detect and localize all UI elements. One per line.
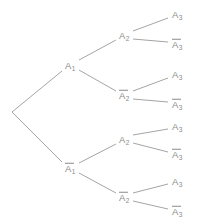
a2-4-to-a3-7 — [133, 184, 168, 193]
a2-3-to-a3-5 — [133, 129, 168, 135]
a2-1-to-a3-1 — [133, 18, 168, 31]
a2-3-to-a3-6 — [133, 143, 168, 152]
a2-2-to-a3-4 — [133, 99, 168, 102]
leaf-a3-8-bar-subscript: 3 — [179, 211, 183, 218]
leaf-a3-3-subscript: 3 — [179, 74, 183, 81]
node-a1-bar-base: A — [65, 163, 71, 174]
leaf-a3-5: A3 — [172, 121, 182, 132]
node-a2-1-base: A — [119, 30, 125, 41]
leaf-a3-2-bar: A3 — [172, 39, 182, 50]
node-a2-2-bar: A2 — [119, 90, 129, 101]
root-to-a1 — [12, 71, 62, 112]
leaf-a3-1-base: A — [172, 9, 178, 20]
leaf-a3-6-bar-base: A — [172, 149, 178, 160]
a2-1-to-a3-2 — [133, 39, 168, 42]
a2-2-to-a3-3 — [133, 78, 168, 91]
tree-edges-layer — [0, 0, 198, 224]
a1-to-a2-1 — [79, 40, 116, 60]
leaf-a3-1: A3 — [172, 9, 182, 20]
leaf-a3-8-bar: A3 — [172, 206, 182, 217]
a1bar-to-a2-3 — [79, 144, 116, 163]
leaf-a3-5-base: A — [172, 121, 178, 132]
node-a1: A1 — [65, 60, 75, 71]
node-a2-1-subscript: 2 — [126, 35, 130, 42]
leaf-a3-7-subscript: 3 — [179, 181, 183, 188]
node-a2-4-bar: A2 — [119, 192, 129, 203]
node-a1-base: A — [65, 60, 71, 71]
leaf-a3-2-bar-base: A — [172, 39, 178, 50]
node-a2-2-bar-subscript: 2 — [126, 95, 130, 102]
a2-4-to-a3-8 — [133, 201, 168, 209]
leaf-a3-6-bar: A3 — [172, 149, 182, 160]
root-to-a1bar — [12, 112, 62, 162]
node-a2-2-bar-base: A — [119, 90, 125, 101]
node-a1-subscript: 1 — [72, 65, 76, 72]
leaf-a3-6-bar-subscript: 3 — [179, 154, 183, 161]
node-a2-4-bar-subscript: 2 — [126, 197, 130, 204]
probability-tree-diagram: A1 A1 A2 A2 A2 A2 A3 A3 A3 A3 A3 A3 A3 A… — [0, 0, 198, 224]
node-a2-3: A2 — [119, 134, 129, 145]
a1bar-to-a2-4 — [79, 173, 116, 193]
node-a1-bar-subscript: 1 — [72, 168, 76, 175]
node-a2-3-base: A — [119, 134, 125, 145]
leaf-a3-4-bar: A3 — [172, 99, 182, 110]
leaf-a3-4-bar-base: A — [172, 99, 178, 110]
node-a1-bar: A1 — [65, 163, 75, 174]
leaf-a3-2-bar-subscript: 3 — [179, 44, 183, 51]
leaf-a3-7-base: A — [172, 176, 178, 187]
a1-to-a2-2 — [79, 70, 116, 91]
leaf-a3-3-base: A — [172, 69, 178, 80]
leaf-a3-7: A3 — [172, 176, 182, 187]
leaf-a3-3: A3 — [172, 69, 182, 80]
leaf-a3-4-bar-subscript: 3 — [179, 104, 183, 111]
leaf-a3-5-subscript: 3 — [179, 126, 183, 133]
node-a2-4-bar-base: A — [119, 192, 125, 203]
leaf-a3-8-bar-base: A — [172, 206, 178, 217]
node-a2-1: A2 — [119, 30, 129, 41]
node-a2-3-subscript: 2 — [126, 139, 130, 146]
leaf-a3-1-subscript: 3 — [179, 14, 183, 21]
